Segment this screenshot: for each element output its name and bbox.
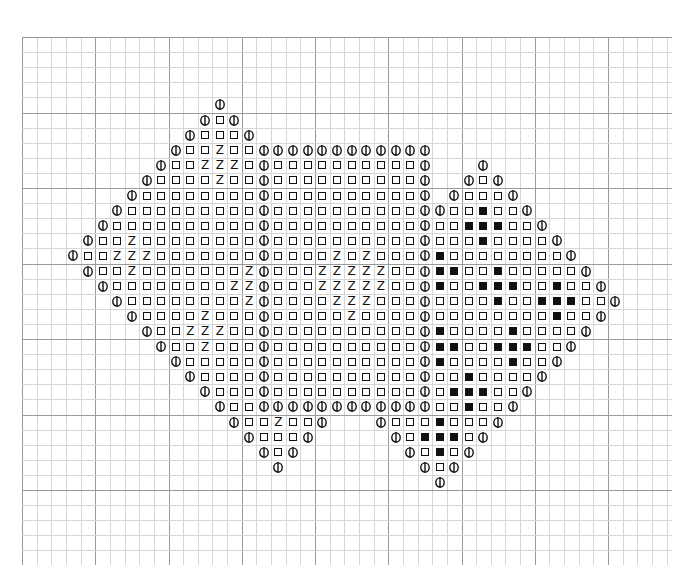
pattern-cell: [505, 309, 520, 324]
z-symbol: Z: [333, 250, 341, 262]
open-square-symbol: [113, 282, 121, 290]
open-square-symbol: [289, 222, 297, 230]
open-square-symbol: [436, 403, 444, 411]
pattern-cell: [520, 294, 535, 309]
pattern-cell: [227, 369, 242, 384]
pattern-cell: [579, 309, 594, 324]
pattern-cell: [256, 143, 271, 158]
open-square-symbol: [157, 237, 165, 245]
pattern-cell: [505, 264, 520, 279]
open-square-symbol: [304, 327, 312, 335]
pattern-cell: [154, 264, 169, 279]
circle-bar-symbol: [259, 326, 269, 337]
open-square-symbol: [479, 252, 487, 260]
open-square-symbol: [274, 312, 282, 320]
pattern-cell: [95, 218, 110, 233]
pattern-cell: [212, 248, 227, 263]
pattern-cell: [462, 264, 477, 279]
open-square-symbol: [348, 373, 356, 381]
open-square-symbol: [289, 327, 297, 335]
pattern-cell: [447, 415, 462, 430]
pattern-cell: [242, 309, 257, 324]
open-square-symbol: [245, 146, 253, 154]
pattern-cell: [491, 218, 506, 233]
z-symbol: Z: [274, 416, 282, 428]
open-square-symbol: [201, 373, 209, 381]
open-square-symbol: [582, 282, 590, 290]
pattern-cell: [286, 294, 301, 309]
open-square-symbol: [143, 222, 151, 230]
open-square-symbol: [274, 282, 282, 290]
z-symbol: Z: [216, 325, 224, 337]
pattern-cell: Z: [330, 264, 345, 279]
circle-bar-symbol: [420, 386, 430, 397]
open-square-symbol: [494, 237, 502, 245]
open-square-symbol: [362, 388, 370, 396]
pattern-cell: [139, 294, 154, 309]
pattern-cell: [359, 324, 374, 339]
pattern-cell: [125, 279, 140, 294]
circle-bar-symbol: [596, 281, 606, 292]
circle-bar-symbol: [391, 145, 401, 156]
pattern-cell: [520, 203, 535, 218]
open-square-symbol: [318, 252, 326, 260]
pattern-cell: [462, 188, 477, 203]
pattern-cell: [374, 384, 389, 399]
open-square-symbol: [230, 252, 238, 260]
pattern-cell: [432, 460, 447, 475]
grid-hline: [22, 565, 672, 566]
pattern-cell: [227, 143, 242, 158]
open-square-symbol: [333, 237, 341, 245]
pattern-cell: [271, 279, 286, 294]
pattern-cell: [212, 399, 227, 414]
pattern-cell: [491, 279, 506, 294]
open-square-symbol: [509, 373, 517, 381]
open-square-symbol: [465, 252, 473, 260]
pattern-cell: Z: [271, 415, 286, 430]
grid-hline: [22, 128, 672, 129]
filled-square-symbol: [421, 433, 429, 441]
z-symbol: Z: [245, 295, 253, 307]
pattern-cell: [271, 233, 286, 248]
open-square-symbol: [406, 388, 414, 396]
z-symbol: Z: [245, 280, 253, 292]
open-square-symbol: [304, 176, 312, 184]
filled-square-symbol: [479, 388, 487, 396]
pattern-cell: [359, 354, 374, 369]
open-square-symbol: [304, 297, 312, 305]
pattern-cell: [359, 158, 374, 173]
pattern-cell: Z: [139, 248, 154, 263]
pattern-cell: [110, 233, 125, 248]
open-square-symbol: [230, 267, 238, 275]
pattern-cell: [110, 294, 125, 309]
pattern-cell: [315, 188, 330, 203]
circle-bar-symbol: [420, 266, 430, 277]
pattern-cell: [330, 354, 345, 369]
z-symbol: Z: [230, 159, 238, 171]
pattern-cell: Z: [344, 279, 359, 294]
pattern-cell: [212, 369, 227, 384]
circle-bar-symbol: [259, 145, 269, 156]
pattern-cell: [388, 354, 403, 369]
pattern-cell: [300, 173, 315, 188]
open-square-symbol: [479, 418, 487, 426]
pattern-cell: [286, 415, 301, 430]
open-square-symbol: [494, 358, 502, 366]
open-square-symbol: [245, 373, 253, 381]
circle-bar-symbol: [420, 341, 430, 352]
pattern-cell: [505, 279, 520, 294]
pattern-cell: [432, 475, 447, 490]
pattern-cell: [256, 384, 271, 399]
circle-bar-symbol: [185, 130, 195, 141]
pattern-cell: [388, 415, 403, 430]
pattern-cell: [476, 399, 491, 414]
pattern-cell: [198, 279, 213, 294]
pattern-cell: [169, 203, 184, 218]
open-square-symbol: [172, 237, 180, 245]
circle-bar-symbol: [215, 99, 225, 110]
pattern-cell: [403, 339, 418, 354]
open-square-symbol: [172, 327, 180, 335]
pattern-cell: [388, 339, 403, 354]
circle-bar-symbol: [376, 401, 386, 412]
circle-bar-symbol: [552, 235, 562, 246]
